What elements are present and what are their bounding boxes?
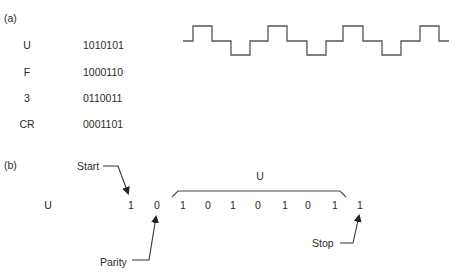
data-bit-5: 1 [282, 199, 288, 211]
data-bit-6: 0 [305, 199, 311, 211]
data-bit-1: 1 [180, 199, 186, 211]
start-bit: 1 [128, 199, 134, 211]
start-arrow [103, 166, 128, 193]
parity-label: Parity [100, 256, 127, 268]
data-bit-7: 1 [332, 199, 338, 211]
stop-bit: 1 [357, 199, 363, 211]
bracket-label: U [256, 170, 264, 182]
parity-arrow [132, 217, 156, 260]
start-label: Start [77, 160, 99, 172]
diagram-lines [0, 0, 458, 278]
data-bit-2: 0 [205, 199, 211, 211]
parity-bit: 0 [154, 199, 160, 211]
data-bit-3: 1 [230, 199, 236, 211]
diagram-canvas: (a) U 1010101 F 1000110 3 0110011 CR 000… [0, 0, 458, 278]
stop-arrow [340, 216, 359, 243]
stop-label: Stop [312, 237, 334, 249]
data-bit-4: 0 [255, 199, 261, 211]
char-label-b-u: U [44, 199, 52, 211]
waveform-line [183, 26, 449, 55]
part-b-label: (b) [4, 159, 17, 171]
data-bits-bracket [172, 191, 346, 197]
